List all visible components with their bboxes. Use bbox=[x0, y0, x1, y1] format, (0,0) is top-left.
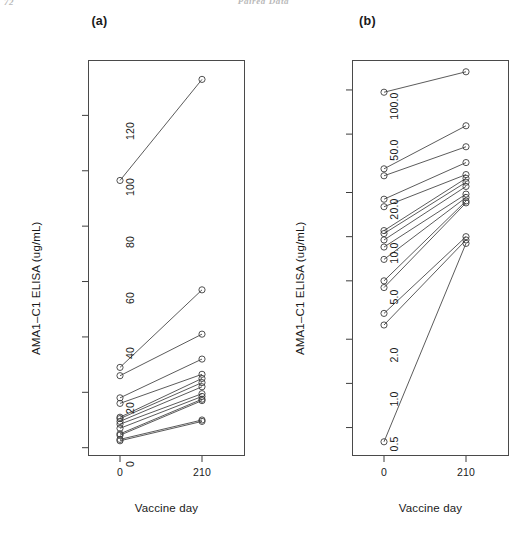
y-tick-label: 50.0 bbox=[388, 127, 400, 173]
y-tick-label: 0 bbox=[124, 441, 136, 487]
y-tick-label: 20.0 bbox=[388, 186, 400, 232]
y-tick-label: 120 bbox=[124, 108, 136, 154]
panel-a-y-axis-title: AMA1–C1 ELISA (ug/mL) bbox=[30, 221, 42, 355]
x-tick-label: 210 bbox=[177, 466, 227, 478]
y-tick-label: 40 bbox=[124, 330, 136, 376]
panel-a-label: (a) bbox=[0, 14, 231, 28]
panel-b-plot-area bbox=[352, 60, 509, 456]
y-tick-label: 0.5 bbox=[388, 421, 400, 467]
x-tick-label: 210 bbox=[441, 466, 491, 478]
figure: (a) AMA1–C1 ELISA (ug/mL) Vaccine day 02… bbox=[0, 0, 527, 541]
y-tick-label: 100.0 bbox=[388, 83, 400, 129]
x-tick-label: 0 bbox=[359, 466, 409, 478]
y-tick-label: 20 bbox=[124, 385, 136, 431]
y-tick-label: 80 bbox=[124, 219, 136, 265]
panel-b-y-axis-title: AMA1–C1 ELISA (ug/mL) bbox=[294, 221, 306, 355]
chart-panel-a: (a) AMA1–C1 ELISA (ug/mL) Vaccine day 02… bbox=[0, 0, 263, 541]
panel-a-plot-area bbox=[88, 60, 245, 456]
panel-a-x-axis-title: Vaccine day bbox=[88, 502, 245, 514]
y-tick-label: 5.0 bbox=[388, 274, 400, 320]
y-tick-label: 100 bbox=[124, 164, 136, 210]
x-tick-label: 0 bbox=[95, 466, 145, 478]
panel-b-label: (b) bbox=[236, 14, 499, 28]
panel-b-x-axis-title: Vaccine day bbox=[352, 502, 509, 514]
y-tick-label: 2.0 bbox=[388, 332, 400, 378]
y-tick-label: 1.0 bbox=[388, 376, 400, 422]
chart-panel-b: (b) AMA1–C1 ELISA (ug/mL) Vaccine day 0.… bbox=[264, 0, 527, 541]
y-tick-label: 60 bbox=[124, 275, 136, 321]
y-tick-label: 10.0 bbox=[388, 230, 400, 276]
